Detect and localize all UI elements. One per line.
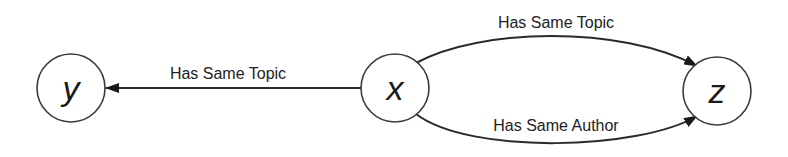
edge-label-x-to-y: Has Same Topic <box>170 65 286 82</box>
edge-line-x-to-z-top <box>416 36 697 66</box>
edge-label-x-to-z-bottom: Has Same Author <box>493 117 619 134</box>
edge-x-to-z-top: Has Same Topic <box>416 14 697 66</box>
node-y: y <box>37 54 105 122</box>
relation-diagram: Has Same Topic Has Same Topic Has Same A… <box>0 0 788 157</box>
node-y-label: y <box>61 69 82 107</box>
edge-x-to-z-bottom: Has Same Author <box>416 114 697 143</box>
node-z: z <box>683 57 751 125</box>
node-x: x <box>361 54 429 122</box>
node-x-label: x <box>385 69 405 107</box>
edge-x-to-y: Has Same Topic <box>106 65 361 88</box>
node-z-label: z <box>708 72 726 110</box>
edge-label-x-to-z-top: Has Same Topic <box>498 14 614 31</box>
